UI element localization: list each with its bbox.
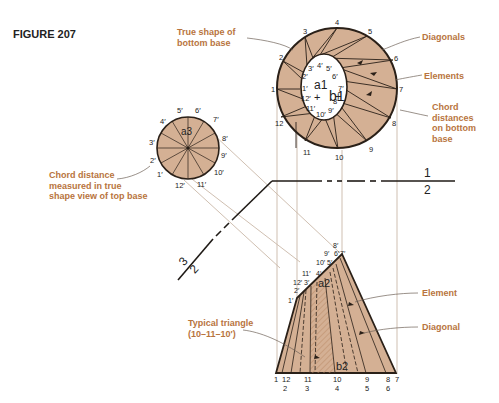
svg-text:12′: 12′: [175, 181, 185, 190]
svg-text:11′: 11′: [197, 180, 207, 189]
svg-text:5′: 5′: [327, 259, 333, 266]
svg-text:6′: 6′: [334, 250, 340, 257]
svg-text:12′: 12′: [301, 94, 311, 103]
fold-label-2: 2: [424, 183, 431, 197]
svg-text:8′: 8′: [222, 134, 228, 143]
svg-text:6: 6: [394, 54, 398, 63]
svg-text:12: 12: [282, 375, 290, 384]
svg-text:2′: 2′: [294, 287, 300, 294]
fold-label-1: 1: [424, 166, 431, 180]
descriptive-geometry-figure: 1 2 3 2: [0, 0, 499, 403]
svg-text:10′: 10′: [316, 259, 326, 266]
svg-text:11′: 11′: [302, 270, 311, 277]
svg-text:12: 12: [275, 119, 283, 128]
svg-text:3′: 3′: [149, 138, 155, 147]
svg-text:4′: 4′: [160, 117, 166, 126]
callout-elements: Elements: [424, 71, 464, 82]
svg-text:7: 7: [399, 85, 403, 94]
svg-text:3′: 3′: [308, 64, 314, 73]
svg-text:5′: 5′: [177, 106, 183, 115]
svg-text:1′: 1′: [157, 170, 163, 179]
svg-text:6′: 6′: [332, 72, 338, 81]
svg-text:1′: 1′: [302, 84, 308, 93]
front-view-cone: [276, 254, 396, 373]
svg-text:5: 5: [368, 27, 372, 36]
a2-label: a2: [318, 277, 330, 289]
svg-text:8′: 8′: [333, 242, 339, 249]
fold-label-2b: 2: [187, 262, 202, 277]
b2-label: b2: [336, 360, 348, 372]
a3-label: a3: [181, 126, 193, 137]
svg-text:6′: 6′: [195, 106, 201, 115]
svg-text:1′: 1′: [288, 297, 294, 304]
svg-text:12′: 12′: [293, 279, 303, 286]
svg-text:9′: 9′: [324, 250, 330, 257]
callout-element: Element: [422, 288, 457, 299]
front-base-labels: 1 12 11 10 9 8 7 2 3 4 5 6: [274, 375, 399, 393]
svg-text:9′: 9′: [221, 151, 227, 160]
svg-text:+: +: [335, 90, 341, 102]
svg-text:10′: 10′: [316, 110, 326, 119]
svg-text:11: 11: [304, 375, 312, 384]
svg-text:1: 1: [274, 375, 278, 384]
svg-text:a1: a1: [314, 78, 328, 92]
svg-text:9: 9: [365, 375, 369, 384]
svg-text:3: 3: [303, 27, 307, 36]
svg-text:4′: 4′: [317, 61, 323, 70]
svg-text:7: 7: [395, 375, 399, 384]
svg-text:3′: 3′: [304, 279, 310, 286]
svg-text:9′: 9′: [328, 106, 334, 115]
svg-text:4: 4: [335, 18, 339, 27]
svg-text:1: 1: [271, 85, 275, 94]
svg-text:8: 8: [386, 375, 390, 384]
svg-text:5: 5: [365, 384, 369, 393]
svg-text:8: 8: [392, 119, 396, 128]
svg-text:9: 9: [369, 145, 373, 154]
svg-text:4: 4: [335, 384, 339, 393]
svg-text:2′: 2′: [302, 72, 308, 81]
svg-text:11: 11: [303, 148, 311, 157]
svg-text:10: 10: [333, 375, 341, 384]
svg-text:2: 2: [279, 53, 283, 62]
svg-text:6: 6: [386, 384, 390, 393]
svg-text:7′: 7′: [213, 115, 219, 124]
callout-chord-top: Chord distance measured in true shape vi…: [49, 170, 148, 202]
callout-typical-triangle: Typical triangle (10–11–10′): [188, 318, 253, 339]
svg-text:2: 2: [283, 384, 287, 393]
svg-text:2′: 2′: [150, 156, 156, 165]
svg-text:11′: 11′: [306, 104, 316, 113]
callout-diagonal: Diagonal: [422, 322, 460, 333]
svg-text:+: +: [314, 91, 320, 103]
svg-text:3: 3: [305, 384, 309, 393]
svg-text:10′: 10′: [214, 168, 224, 177]
svg-text:7′: 7′: [340, 250, 346, 257]
svg-text:4′: 4′: [316, 270, 322, 277]
callout-true-shape: True shape of bottom base: [177, 27, 236, 48]
callout-diagonals: Diagonals: [422, 32, 465, 43]
callout-chord-bottom: Chord distances on bottom base: [432, 102, 476, 144]
svg-text:10: 10: [335, 153, 343, 162]
